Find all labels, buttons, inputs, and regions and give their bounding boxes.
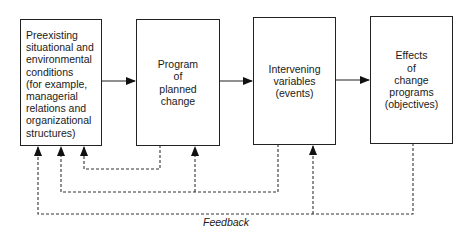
box-label: Program of planned change <box>158 58 198 107</box>
feedback-loop-program <box>84 145 160 169</box>
box-intervening-variables: Intervening variables (events) <box>253 17 336 145</box>
feedback-loop-effects <box>38 143 413 214</box>
feedback-label: Feedback <box>203 216 249 228</box>
box-program-of-planned-change: Program of planned change <box>136 19 220 146</box>
box-preexisting-conditions: Preexisting situational and environmenta… <box>20 19 102 146</box>
box-effects-of-change-programs: Effects of change programs (objectives) <box>370 16 453 144</box>
box-label: Intervening variables (events) <box>269 63 321 100</box>
box-label: Effects of change programs (objectives) <box>385 49 439 110</box>
feedback-loop-intervening <box>61 144 278 192</box>
box-label: Preexisting situational and environmenta… <box>26 29 94 139</box>
